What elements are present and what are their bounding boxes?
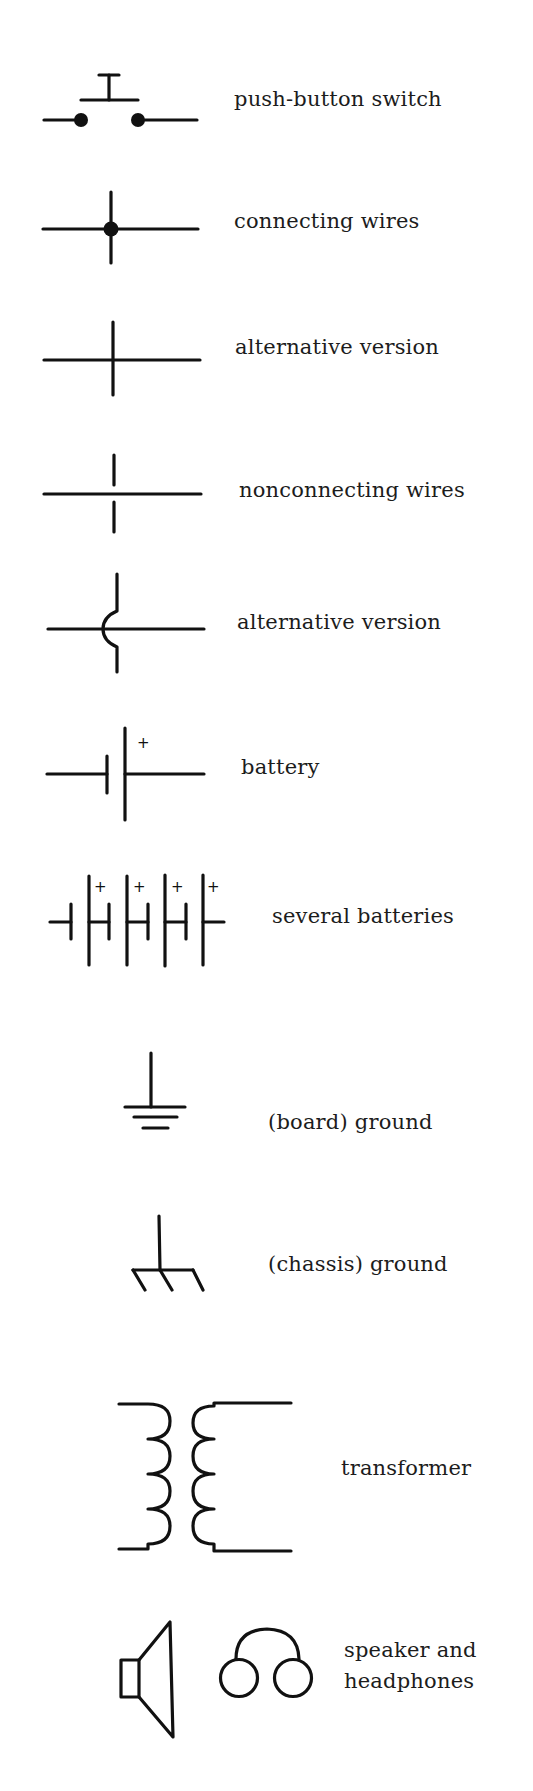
svg-text:+: + — [94, 878, 107, 896]
battery-icon: + — [47, 728, 204, 820]
label-connecting-wires: connecting wires — [234, 208, 420, 235]
push-button-switch-icon — [44, 75, 197, 127]
label-connecting-wires-alt: alternative version — [235, 334, 439, 361]
label-speaker-headphones-line1: speaker and — [344, 1637, 477, 1664]
speaker-icon — [121, 1622, 173, 1737]
chassis-ground-icon — [133, 1216, 203, 1290]
nonconnecting-wires-icon — [44, 455, 201, 532]
board-ground-icon — [125, 1053, 185, 1128]
label-several-batteries: several batteries — [272, 903, 454, 930]
svg-text:+: + — [207, 878, 220, 896]
svg-text:+: + — [133, 878, 146, 896]
label-push-button-switch: push-button switch — [234, 86, 442, 113]
label-transformer: transformer — [341, 1455, 471, 1482]
transformer-icon — [119, 1403, 291, 1551]
label-chassis-ground: (chassis) ground — [268, 1251, 448, 1278]
label-battery: battery — [241, 754, 320, 781]
several-batteries-icon: + + + + — [50, 875, 224, 966]
connecting-wires-alt-icon — [44, 322, 200, 395]
label-nonconnecting-wires-alt: alternative version — [237, 609, 441, 636]
headphones-icon — [221, 1629, 312, 1697]
nonconnecting-wires-alt-icon — [48, 574, 204, 672]
label-nonconnecting-wires: nonconnecting wires — [239, 477, 465, 504]
connecting-wires-icon — [43, 192, 198, 263]
svg-text:+: + — [171, 878, 184, 896]
label-speaker-headphones-line2: headphones — [344, 1668, 474, 1695]
svg-text:+: + — [137, 734, 150, 752]
label-board-ground: (board) ground — [268, 1109, 433, 1136]
